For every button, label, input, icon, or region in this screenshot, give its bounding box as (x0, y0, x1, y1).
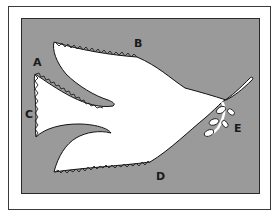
dove-diagram: A B C D E (0, 0, 277, 216)
label-d: D (156, 170, 165, 183)
label-e: E (234, 122, 242, 135)
label-c: C (25, 108, 33, 121)
label-b: B (134, 37, 142, 50)
label-a: A (33, 56, 42, 69)
